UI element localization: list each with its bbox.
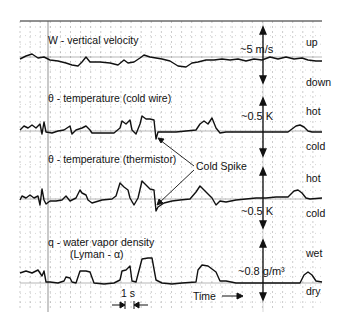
side-label-cold-2: cold bbox=[306, 207, 325, 219]
annotation-1s: 1 s bbox=[121, 287, 135, 299]
side-label-cold-1: cold bbox=[306, 140, 325, 152]
time-arrow bbox=[222, 293, 243, 299]
cold-spike-pointers bbox=[157, 138, 194, 205]
scale-label-thermistor: ~0.5 K bbox=[241, 205, 274, 217]
side-label-up: up bbox=[306, 36, 318, 48]
panel-sublabel-q: (Lyman - α) bbox=[70, 248, 124, 260]
panel-label-thermistor: θ - temperature (thermistor) bbox=[48, 153, 176, 165]
side-label-hot-1: hot bbox=[306, 105, 321, 117]
scale-label-w: ~5 m/s bbox=[240, 43, 274, 55]
data-traces bbox=[20, 54, 322, 284]
side-label-dry: dry bbox=[306, 285, 321, 297]
side-label-down: down bbox=[306, 76, 331, 88]
annotation-cold-spike: Cold Spike bbox=[196, 160, 247, 172]
panel-label-cold-wire: θ - temperature (cold wire) bbox=[48, 92, 171, 104]
trace-theta_thermistor bbox=[20, 181, 322, 211]
side-label-hot-2: hot bbox=[306, 172, 321, 184]
scale-label-cold-wire: ~0.5 K bbox=[241, 110, 274, 122]
panel-label-w: W - vertical velocity bbox=[48, 34, 139, 46]
strip-chart-figure: W - vertical velocity θ - temperature (c… bbox=[0, 0, 355, 324]
side-label-wet: wet bbox=[305, 247, 322, 259]
annotation-time: Time bbox=[193, 290, 216, 302]
panel-label-q: q - water vapor density bbox=[48, 236, 155, 248]
trace-theta_cold_wire bbox=[20, 116, 322, 139]
scale-label-q: ~0.8 g/m³ bbox=[238, 265, 285, 277]
trace-w bbox=[20, 54, 322, 67]
